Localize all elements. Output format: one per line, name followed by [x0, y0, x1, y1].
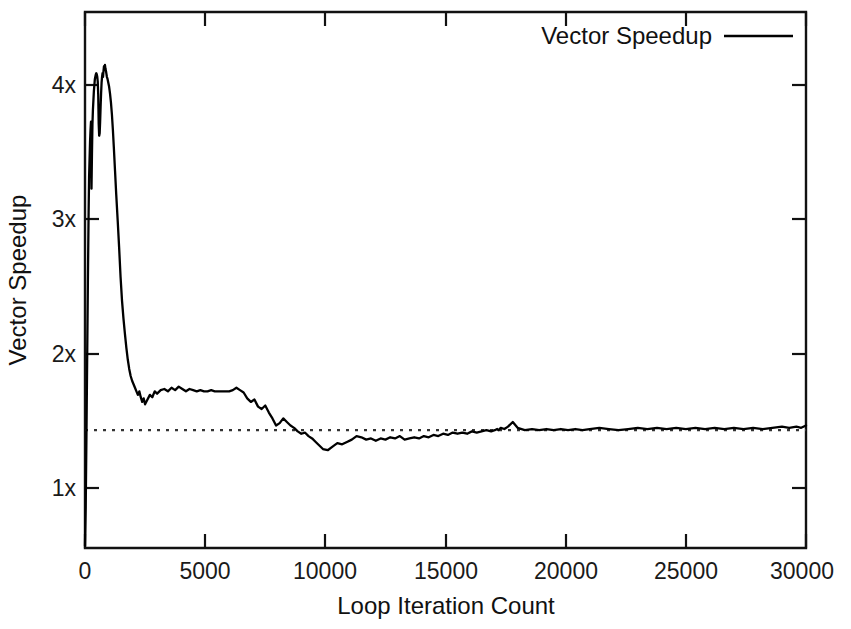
x-tick-marks — [85, 12, 806, 548]
y-tick-label-4x: 4x — [52, 72, 77, 98]
x-tick-label-10000: 10000 — [293, 558, 357, 584]
legend: Vector Speedup — [541, 22, 793, 49]
x-tick-label-30000: 30000 — [770, 558, 834, 584]
y-tick-label-3x: 3x — [52, 206, 77, 232]
plot-frame — [85, 12, 806, 548]
legend-label-vector-speedup: Vector Speedup — [541, 22, 712, 49]
vector-speedup-line-chart: 1x 2x 3x 4x 0 5000 10000 15000 20000 250… — [0, 0, 851, 629]
x-tick-label-0: 0 — [79, 558, 92, 584]
y-tick-label-1x: 1x — [52, 475, 77, 501]
x-axis-title: Loop Iteration Count — [337, 592, 555, 619]
y-tick-label-2x: 2x — [52, 341, 77, 367]
series-vector-speedup — [85, 65, 806, 546]
x-tick-label-5000: 5000 — [179, 558, 230, 584]
x-tick-label-15000: 15000 — [414, 558, 478, 584]
chart-container: 1x 2x 3x 4x 0 5000 10000 15000 20000 250… — [0, 0, 851, 629]
y-axis-title: Vector Speedup — [4, 195, 31, 366]
x-tick-label-20000: 20000 — [534, 558, 598, 584]
x-tick-label-25000: 25000 — [654, 558, 718, 584]
